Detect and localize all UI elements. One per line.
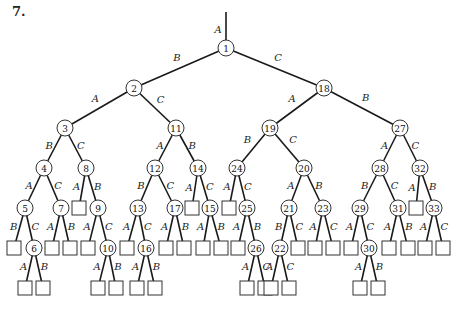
node-number: 10: [102, 244, 114, 254]
edge-label: A: [308, 221, 316, 232]
tree-node: 11: [168, 120, 184, 136]
tree-node: 28: [372, 160, 388, 176]
edge-label: A: [131, 261, 139, 272]
tree-node: 19: [262, 120, 278, 136]
edge-label: A: [380, 140, 388, 151]
node-number: 4: [41, 164, 47, 174]
node-number: 1: [223, 44, 229, 54]
tree-node: 13: [130, 200, 146, 216]
tree-node: 5: [17, 200, 33, 216]
tree-node: 27: [392, 120, 408, 136]
edge-label: C: [274, 52, 282, 63]
edge-label: A: [265, 261, 273, 272]
node-number: 32: [414, 164, 425, 174]
tree-node: 1: [218, 40, 234, 56]
leaf-box: [45, 241, 59, 255]
edge-label: A: [24, 180, 32, 191]
leaf-box: [63, 241, 77, 255]
tree-edge: [65, 88, 134, 128]
edge-label: C: [367, 221, 375, 232]
edge-label: A: [72, 181, 80, 192]
leaf-box: [264, 281, 278, 295]
leaf-box: [282, 281, 296, 295]
leaf-box: [159, 241, 173, 255]
edge-label: B: [404, 221, 412, 232]
edge-label: B: [93, 181, 101, 192]
tree-node: 23: [315, 200, 331, 216]
tree-node: 14: [190, 160, 206, 176]
edge-label: B: [243, 134, 251, 145]
tree-node: 3: [57, 120, 73, 136]
leaf-box: [177, 241, 191, 255]
leaf-box: [382, 241, 396, 255]
tree-edge: [270, 88, 324, 128]
leaf-box: [72, 201, 86, 215]
edge-label: B: [253, 221, 261, 232]
edge-label: B: [181, 221, 189, 232]
tree-node: 8: [78, 160, 94, 176]
tree-node: 4: [36, 160, 52, 176]
tree-node: 24: [229, 160, 245, 176]
edge-label: C: [244, 181, 252, 192]
leaf-box: [291, 241, 305, 255]
edge-label: A: [286, 180, 294, 191]
tree-node: 26: [248, 240, 264, 256]
edge-label: C: [289, 134, 297, 145]
leaf-box: [436, 241, 450, 255]
leaf-box: [148, 281, 162, 295]
edge-label: B: [67, 221, 75, 232]
node-number: 19: [264, 124, 276, 134]
node-number: 18: [318, 84, 330, 94]
node-number: 15: [204, 204, 216, 214]
node-number: 20: [298, 164, 310, 174]
leaf-box: [409, 201, 423, 215]
tree-node: 7: [53, 200, 69, 216]
edge-label: A: [196, 221, 204, 232]
node-number: 29: [354, 204, 366, 214]
node-number: 24: [231, 164, 243, 174]
leaf-box: [130, 281, 144, 295]
tree-node: 15: [202, 200, 218, 216]
edge-label: A: [288, 93, 296, 104]
node-number: 21: [283, 204, 294, 214]
edge-label: A: [222, 181, 230, 192]
tree-node: 6: [26, 240, 42, 256]
node-number: 25: [241, 204, 253, 214]
node-number: 9: [95, 204, 101, 214]
leaf-box: [308, 241, 322, 255]
node-number: 13: [132, 204, 144, 214]
tree-node: 9: [90, 200, 106, 216]
edge-label: C: [157, 94, 165, 105]
edge-label: B: [152, 261, 160, 272]
tree-node: 30: [361, 240, 377, 256]
node-number: 27: [394, 124, 406, 134]
edge-label: C: [412, 140, 420, 151]
edge-label: C: [54, 180, 62, 191]
edge-label: B: [188, 140, 196, 151]
edge-label: A: [232, 221, 240, 232]
edge-label: A: [160, 221, 168, 232]
leaf-box: [120, 241, 134, 255]
tree-node: 25: [239, 200, 255, 216]
node-number: 11: [170, 124, 181, 134]
edge-label: A: [345, 221, 353, 232]
tree-node: 16: [138, 240, 154, 256]
tree-node: 12: [147, 160, 163, 176]
tree-node: 10: [100, 240, 116, 256]
edge-label: A: [213, 24, 221, 35]
leaf-box: [418, 241, 432, 255]
edge-label: B: [45, 140, 53, 151]
edge-label: B: [314, 180, 322, 191]
edge-label: C: [287, 261, 295, 272]
edge-label: C: [296, 221, 304, 232]
tree-nodes: 1218311192748121424202832579131715252123…: [7, 40, 450, 295]
node-number: 5: [22, 204, 28, 214]
tree-node: 21: [281, 200, 297, 216]
leaf-box: [240, 281, 254, 295]
edge-label: A: [93, 261, 101, 272]
edge-label: A: [83, 221, 91, 232]
edge-label: A: [419, 221, 427, 232]
tree-node: 20: [296, 160, 312, 176]
edge-label: C: [441, 221, 449, 232]
edge-label: A: [184, 182, 192, 193]
